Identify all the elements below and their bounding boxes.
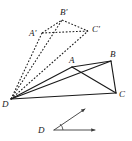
- label-C-prime: C': [92, 24, 101, 34]
- edge-Bprime-Cprime: [62, 20, 88, 31]
- edge-B-C: [111, 61, 116, 93]
- angle-diagram-group: D: [37, 109, 95, 135]
- label-D: D: [1, 99, 9, 109]
- label-B: B: [110, 49, 116, 59]
- diagonal-ray: [54, 109, 85, 130]
- solid-triangle-group: [11, 61, 116, 99]
- label-D-vector: D: [37, 125, 45, 135]
- edge-D-Bprime: [11, 20, 62, 99]
- edge-Aprime-Bprime: [42, 20, 62, 33]
- edge-A-C: [72, 67, 116, 93]
- label-C: C: [119, 89, 126, 99]
- label-A-prime: A': [28, 28, 37, 38]
- label-A: A: [68, 55, 75, 65]
- edge-D-C: [11, 93, 116, 99]
- edge-Aprime-Cprime: [42, 31, 88, 33]
- edge-A-B: [72, 61, 111, 67]
- dashed-triangle-group: [11, 20, 88, 99]
- figure-canvas: A B C D A' B' C' D: [0, 0, 132, 141]
- edge-D-Cprime: [11, 31, 88, 99]
- label-B-prime: B': [60, 7, 68, 17]
- geometry-figure: A B C D A' B' C' D: [0, 0, 132, 141]
